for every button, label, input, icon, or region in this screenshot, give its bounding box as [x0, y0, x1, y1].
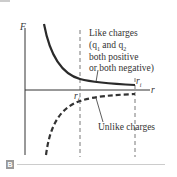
y-axis-label: F [20, 22, 26, 32]
bottom-rule [17, 164, 165, 165]
unlike-charges-label: Unlike charges [98, 122, 155, 132]
ri-label: ri [136, 76, 141, 90]
panel-label-badge: B [6, 160, 14, 169]
like-charges-label-line1: Like charges [89, 28, 138, 38]
rf-label: rf [74, 91, 79, 105]
like-charges-label-line3: both positive [89, 52, 138, 62]
coulomb-force-diagram: F r ri rf Like charges (q1 and q2 both p… [0, 0, 177, 177]
unlike-label-pointer [96, 98, 103, 122]
like-charges-label-line4: or both negative) [89, 63, 154, 73]
x-axis-label: r [151, 85, 155, 95]
